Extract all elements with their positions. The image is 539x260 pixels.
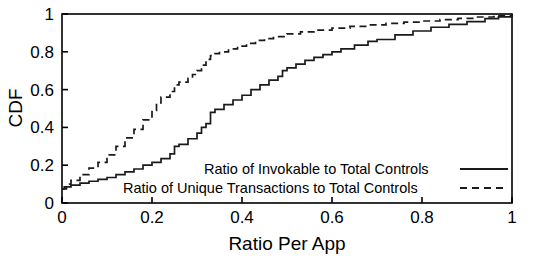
x-tick-label: 0.8	[410, 208, 434, 227]
x-axis-ticks: 00.20.40.60.81	[57, 197, 516, 227]
y-tick-label: 1	[45, 5, 54, 24]
y-tick-label: 0.6	[30, 81, 54, 100]
x-tick-label: 0.6	[320, 208, 344, 227]
x-axis-title: Ratio Per App	[228, 233, 345, 254]
y-tick-label: 0	[45, 194, 54, 213]
legend-label-invokable: Ratio of Invokable to Total Controls	[204, 161, 429, 177]
legend-label-unique-transactions: Ratio of Unique Transactions to Total Co…	[123, 180, 418, 196]
chart-legend: Ratio of Invokable to Total Controls Rat…	[123, 161, 508, 196]
chart-svg: 00.20.40.60.81 00.20.40.60.81 Ratio Per …	[0, 0, 539, 260]
x-tick-label: 1	[507, 208, 516, 227]
x-tick-label: 0.4	[230, 208, 254, 227]
cdf-chart: 00.20.40.60.81 00.20.40.60.81 Ratio Per …	[0, 0, 539, 260]
x-tick-label: 0.2	[140, 208, 164, 227]
x-tick-label: 0	[57, 208, 66, 227]
y-tick-label: 0.2	[30, 156, 54, 175]
y-axis-title: CDF	[5, 88, 26, 127]
y-tick-label: 0.4	[30, 118, 54, 137]
y-tick-label: 0.8	[30, 43, 54, 62]
